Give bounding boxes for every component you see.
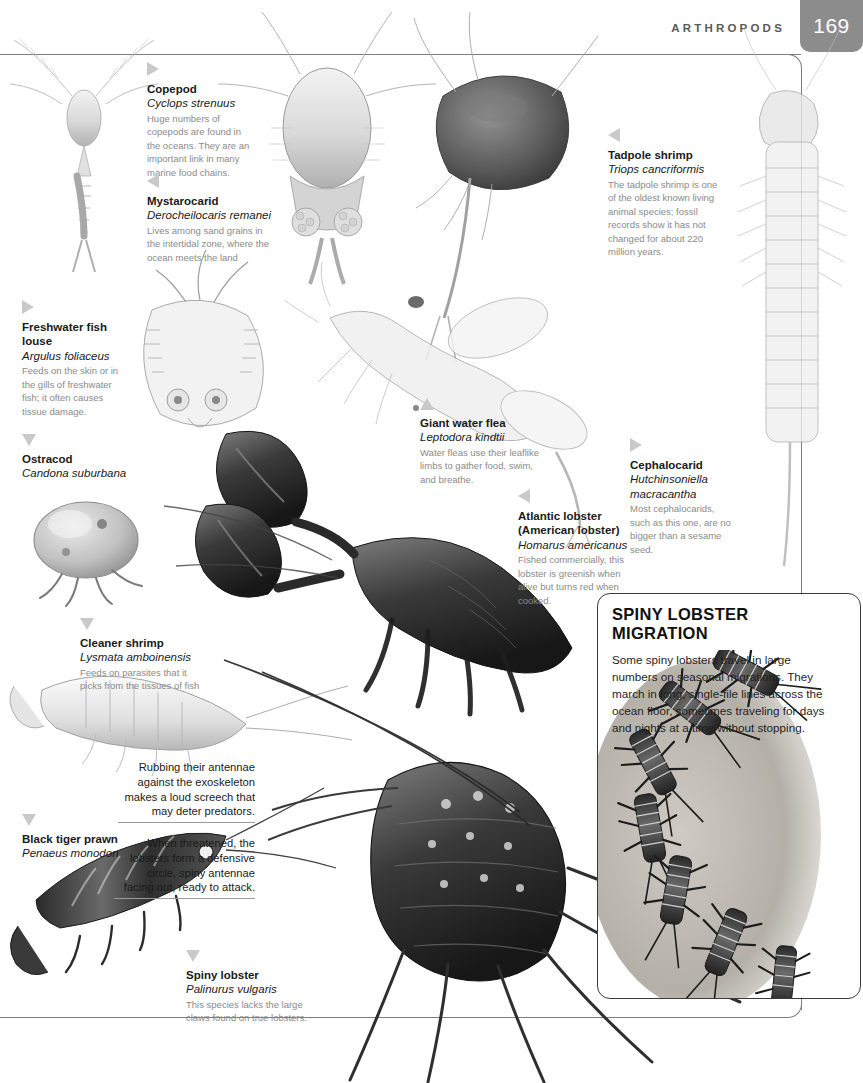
marker-triangle-left-icon bbox=[518, 489, 530, 503]
callout-common-name: Copepod bbox=[147, 82, 251, 96]
marker-triangle-down-icon bbox=[80, 618, 94, 630]
callout-scientific-name: Leptodora kindtii bbox=[420, 430, 542, 444]
marker-triangle-down-icon bbox=[186, 950, 200, 962]
marker-triangle-right-icon bbox=[22, 300, 34, 314]
callout-description: This species lacks the large claws found… bbox=[186, 998, 308, 1025]
callout-scientific-name: Candona suburbana bbox=[22, 466, 132, 480]
callout-atlantic-lobster: Atlantic lobster (American lobster) Homa… bbox=[518, 489, 630, 607]
callout-common-name: Mystarocarid bbox=[147, 194, 271, 208]
migration-caption-antennae: Rubbing their antennae against the exosk… bbox=[118, 760, 255, 823]
illustration-cephalocarid bbox=[738, 28, 846, 566]
callout-cleaner-shrimp: Cleaner shrimp Lysmata amboinensis Feeds… bbox=[80, 618, 200, 693]
callout-common-name: Spiny lobster bbox=[186, 968, 308, 982]
callout-ostracod: Ostracod Candona suburbana bbox=[22, 434, 132, 481]
callout-scientific-name: Lysmata amboinensis bbox=[80, 650, 200, 664]
callout-description: Water fleas use their leaflike limbs to … bbox=[420, 446, 542, 486]
callout-description: Most cephalocarids, such as this one, ar… bbox=[630, 502, 734, 556]
migration-panel-body: Some spiny lobsters travel in large numb… bbox=[612, 652, 830, 737]
marker-triangle-down-icon bbox=[22, 434, 36, 446]
callout-scientific-name: Triops cancriformis bbox=[608, 162, 722, 176]
callout-freshwater-fish-louse: Freshwater fish louse Argulus foliaceus … bbox=[22, 300, 128, 418]
callout-common-name: Tadpole shrimp bbox=[608, 148, 722, 162]
migration-panel-title: SPINY LOBSTER MIGRATION bbox=[612, 605, 846, 643]
callout-description: The tadpole shrimp is one of the oldest … bbox=[608, 178, 722, 259]
marker-triangle-up-icon bbox=[420, 398, 434, 410]
page-frame-corner-top-right bbox=[782, 54, 802, 74]
callout-cephalocarid: Cephalocarid Hutchinsoniella macracantha… bbox=[630, 438, 734, 556]
callout-common-name: Cleaner shrimp bbox=[80, 636, 200, 650]
callout-common-name: Cephalocarid bbox=[630, 458, 734, 472]
callout-scientific-name: Cyclops strenuus bbox=[147, 96, 251, 110]
illustration-freshwater-fish-louse bbox=[144, 250, 264, 427]
illustration-tadpole-shrimp bbox=[408, 12, 598, 362]
callout-scientific-name: Argulus foliaceus bbox=[22, 349, 128, 363]
spiny-lobster-migration-panel: SPINY LOBSTER MIGRATION Some spiny lobst… bbox=[597, 593, 861, 999]
book-page: ARTHROPODS 169 bbox=[0, 0, 863, 1083]
callout-scientific-name: Palinurus vulgaris bbox=[186, 982, 308, 996]
running-head: ARTHROPODS bbox=[600, 22, 785, 34]
callout-common-name: Giant water flea bbox=[420, 416, 542, 430]
page-frame-bottom-rule bbox=[0, 1017, 786, 1018]
callout-description: Huge numbers of copepods are found in th… bbox=[147, 112, 251, 179]
callout-copepod: Copepod Cyclops strenuus Huge numbers of… bbox=[147, 62, 251, 179]
illustration-copepod bbox=[10, 39, 158, 272]
migration-caption-defensive-circle: When threatened, the lobsters form a def… bbox=[114, 836, 255, 899]
callout-scientific-name: Hutchinsoniella macracantha bbox=[630, 472, 734, 501]
callout-tadpole-shrimp: Tadpole shrimp Triops cancriformis The t… bbox=[608, 128, 722, 259]
callout-scientific-name: Derocheilocaris remanei bbox=[147, 208, 271, 222]
marker-triangle-down-icon bbox=[22, 814, 36, 826]
callout-description: Feeds on parasites that it picks from th… bbox=[80, 666, 200, 693]
page-number: 169 bbox=[813, 14, 850, 38]
illustration-ostracod bbox=[34, 502, 142, 606]
page-number-badge: 169 bbox=[800, 0, 863, 52]
callout-scientific-name: Homarus americanus bbox=[518, 538, 630, 552]
callout-mystarocarid: Mystarocarid Derocheilocaris remanei Liv… bbox=[147, 174, 271, 264]
callout-description: Feeds on the skin or in the gills of fre… bbox=[22, 364, 128, 418]
callout-common-name: Ostracod bbox=[22, 452, 132, 466]
marker-triangle-left-icon bbox=[147, 174, 159, 188]
callout-description: Lives among sand grains in the intertida… bbox=[147, 224, 271, 264]
callout-common-name: Freshwater fish louse bbox=[22, 320, 128, 349]
marker-triangle-left-icon bbox=[608, 128, 620, 142]
callout-spiny-lobster: Spiny lobster Palinurus vulgaris This sp… bbox=[186, 950, 308, 1025]
page-frame-top-rule bbox=[0, 54, 801, 55]
page-frame-corner-bottom-right bbox=[782, 998, 802, 1018]
callout-common-name: Atlantic lobster (American lobster) bbox=[518, 509, 630, 538]
callout-giant-water-flea: Giant water flea Leptodora kindtii Water… bbox=[420, 398, 542, 486]
marker-triangle-right-icon bbox=[147, 62, 159, 76]
marker-triangle-right-icon bbox=[630, 438, 642, 452]
